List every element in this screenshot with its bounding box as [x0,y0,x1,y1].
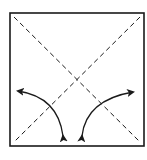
fold-diagram [0,0,147,160]
